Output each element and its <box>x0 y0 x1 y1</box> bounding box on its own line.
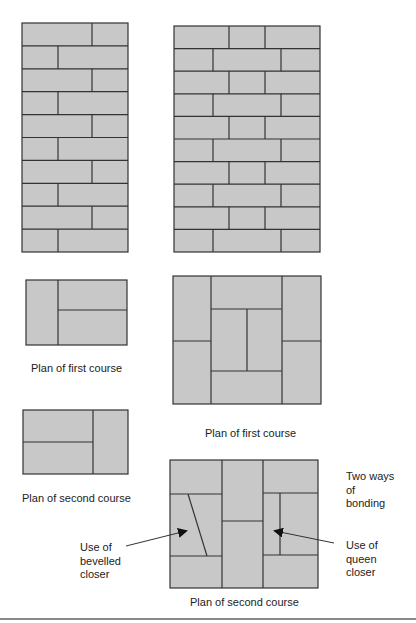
caption-left-first-course: Plan of first course <box>31 362 122 376</box>
note-two-ways-of-bonding: Two ways of bonding <box>346 470 406 511</box>
caption-right-second-course: Plan of second course <box>190 596 299 610</box>
plan-right-second-course <box>170 460 318 588</box>
elevation-left-pier <box>22 23 128 252</box>
bottom-divider <box>0 618 416 620</box>
elevation-right-pier <box>174 26 320 252</box>
brick-bonding-diagram <box>0 0 416 623</box>
note-queen-closer: Use of queen closer <box>346 539 406 580</box>
plan-outline <box>26 280 127 345</box>
plan-left-first-course <box>26 280 127 345</box>
note-bevelled-closer: Use of bevelled closer <box>80 541 140 582</box>
caption-right-first-course: Plan of first course <box>205 427 296 441</box>
plan-outline <box>170 460 318 588</box>
plan-right-first-course <box>173 276 321 404</box>
caption-left-second-course: Plan of second course <box>22 492 131 506</box>
plan-left-second-course <box>23 410 128 474</box>
